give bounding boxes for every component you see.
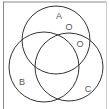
set-a-label: A [56, 11, 62, 21]
set-b-circle [9, 32, 79, 102]
set-c-label: C [85, 84, 92, 94]
marker-a-only: O [65, 22, 72, 32]
venn-diagram: A B C O O [0, 0, 109, 109]
venn-diagram-frame: A B C O O [0, 0, 109, 109]
marker-a-and-c: O [76, 39, 83, 49]
set-b-label: B [19, 77, 25, 87]
